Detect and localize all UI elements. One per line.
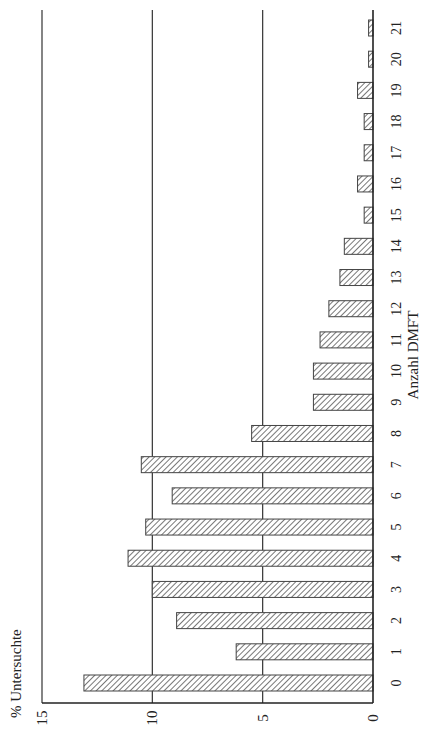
bar-10 bbox=[313, 363, 373, 379]
bar-6 bbox=[172, 488, 373, 504]
bar-8 bbox=[252, 425, 373, 441]
bar-18 bbox=[364, 114, 373, 130]
bar-7 bbox=[141, 457, 373, 473]
category-label-15: 15 bbox=[389, 208, 404, 222]
bar-4 bbox=[128, 550, 373, 566]
axes bbox=[42, 10, 373, 703]
category-label-17: 17 bbox=[389, 146, 404, 160]
category-label-14: 14 bbox=[389, 239, 404, 253]
category-label-2: 2 bbox=[389, 617, 404, 624]
bar-9 bbox=[313, 394, 373, 410]
bar-17 bbox=[364, 145, 373, 161]
gridlines bbox=[42, 10, 263, 703]
category-label-16: 16 bbox=[389, 177, 404, 191]
value-tick-15: 15 bbox=[34, 711, 50, 726]
bar-11 bbox=[320, 332, 373, 348]
bars bbox=[84, 20, 373, 691]
category-label-11: 11 bbox=[389, 333, 404, 346]
category-label-4: 4 bbox=[389, 555, 404, 562]
category-label-8: 8 bbox=[389, 430, 404, 437]
category-label-3: 3 bbox=[389, 586, 404, 593]
category-label-21: 21 bbox=[389, 21, 404, 35]
category-label-20: 20 bbox=[389, 52, 404, 66]
category-label-9: 9 bbox=[389, 399, 404, 406]
value-tick-10: 10 bbox=[144, 711, 160, 726]
bar-14 bbox=[344, 238, 373, 254]
category-label-12: 12 bbox=[389, 302, 404, 316]
value-tick-0: 0 bbox=[365, 714, 381, 722]
bar-5 bbox=[146, 519, 373, 535]
category-label-0: 0 bbox=[389, 680, 404, 687]
bar-15 bbox=[364, 207, 373, 223]
x-axis-title: Anzahl DMFT bbox=[405, 311, 421, 400]
category-label-13: 13 bbox=[389, 271, 404, 285]
bar-19 bbox=[358, 82, 373, 98]
value-tick-labels: 051015 bbox=[34, 711, 381, 726]
value-tick-5: 5 bbox=[255, 714, 271, 722]
bar-2 bbox=[177, 613, 373, 629]
bar-16 bbox=[358, 176, 373, 192]
dmft-bar-chart: 0123456789101112131415161718192021 05101… bbox=[0, 0, 423, 750]
category-label-19: 19 bbox=[389, 83, 404, 97]
category-label-10: 10 bbox=[389, 364, 404, 378]
category-label-6: 6 bbox=[389, 492, 404, 499]
bar-12 bbox=[329, 301, 373, 317]
bar-3 bbox=[152, 581, 373, 597]
category-label-7: 7 bbox=[389, 461, 404, 468]
y-axis-title: % Untersuchte bbox=[8, 629, 24, 718]
bar-0 bbox=[84, 675, 373, 691]
category-label-18: 18 bbox=[389, 115, 404, 129]
category-label-5: 5 bbox=[389, 524, 404, 531]
category-label-1: 1 bbox=[389, 648, 404, 655]
category-tick-labels: 0123456789101112131415161718192021 bbox=[389, 21, 404, 687]
bar-13 bbox=[340, 270, 373, 286]
bar-1 bbox=[236, 644, 373, 660]
